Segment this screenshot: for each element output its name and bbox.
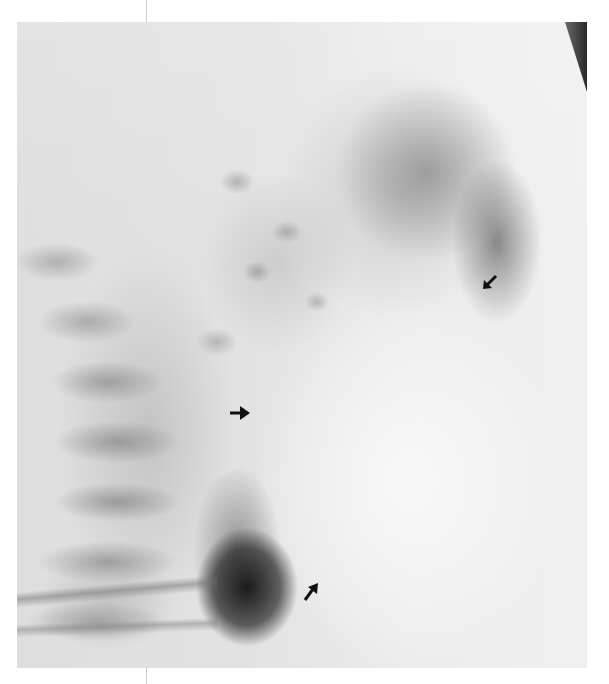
spine-ribs-shadow xyxy=(17,172,247,668)
radiograph xyxy=(17,22,587,668)
arrow-up-right-icon xyxy=(301,581,321,603)
dark-corner-wedge xyxy=(565,22,587,92)
retrocardiac-air xyxy=(167,462,317,652)
hilar-vessels xyxy=(177,142,377,382)
cardiac-silhouette xyxy=(237,242,567,668)
lower-vertebrae xyxy=(17,542,217,668)
arrow-down-left-icon xyxy=(480,272,500,292)
lung-field xyxy=(247,42,547,382)
arrow-right-icon xyxy=(228,404,252,422)
film-background xyxy=(17,22,587,668)
